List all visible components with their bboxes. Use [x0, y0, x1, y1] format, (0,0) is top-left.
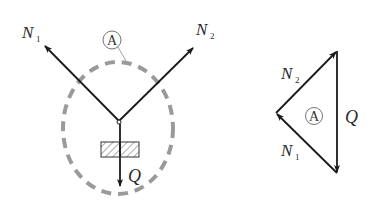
svg-text:1: 1: [36, 34, 41, 44]
rope-left: [45, 46, 119, 121]
junction-knot: [117, 120, 121, 124]
label-q-left: Q: [128, 166, 141, 186]
label-n2-left: N 2: [195, 20, 215, 41]
force-diagram: A N 1 N 2 Q A N 2 N 1 Q: [0, 0, 371, 201]
label-n2-right: N 2: [280, 64, 300, 85]
label-q-right: Q: [345, 107, 358, 127]
region-a-marker: A: [103, 31, 126, 61]
svg-text:1: 1: [295, 152, 300, 162]
force-triangle: A N 2 N 1 Q: [276, 51, 358, 173]
svg-text:N: N: [280, 64, 294, 83]
svg-text:A: A: [309, 109, 320, 124]
rope-right: [119, 48, 193, 121]
svg-text:2: 2: [210, 31, 215, 41]
label-n1-left: N 1: [21, 23, 41, 44]
svg-text:2: 2: [295, 75, 300, 85]
svg-text:N: N: [195, 20, 209, 39]
svg-text:N: N: [21, 23, 35, 42]
svg-text:N: N: [280, 141, 294, 160]
region-a-marker-triangle: A: [306, 108, 323, 125]
svg-text:A: A: [107, 33, 118, 48]
label-n1-right: N 1: [280, 141, 300, 162]
free-body-diagram: A N 1 N 2 Q: [21, 20, 215, 194]
